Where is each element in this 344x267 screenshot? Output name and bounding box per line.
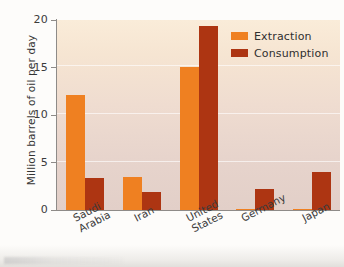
y-tick-label-0: 0 <box>24 203 48 216</box>
legend-item-extraction: Extraction <box>231 29 329 43</box>
y-tick-mark-10 <box>51 115 56 116</box>
y-axis-line <box>56 19 57 210</box>
y-tick-mark-5 <box>51 162 56 163</box>
scan-artifact-mark <box>4 257 124 264</box>
legend-swatch-consumption-icon <box>231 49 248 57</box>
legend-label-extraction: Extraction <box>254 30 312 43</box>
y-tick-mark-20 <box>51 20 56 21</box>
legend-item-consumption: Consumption <box>231 46 329 60</box>
bar-iran-extraction <box>123 177 142 210</box>
bar-united-states-extraction <box>180 67 199 210</box>
chart-legend: Extraction Consumption <box>231 29 329 63</box>
legend-label-consumption: Consumption <box>254 47 329 60</box>
bar-united-states-consumption <box>199 26 218 210</box>
y-axis-title: Million barrels of oil per day <box>25 25 37 195</box>
oil-extraction-consumption-bar-chart: 20 15 10 5 0 Million barrels of oil per … <box>0 0 344 267</box>
y-tick-mark-0 <box>51 210 56 211</box>
legend-swatch-extraction-icon <box>231 32 248 40</box>
y-tick-mark-15 <box>51 67 56 68</box>
bar-saudi-arabia-extraction <box>66 95 85 210</box>
